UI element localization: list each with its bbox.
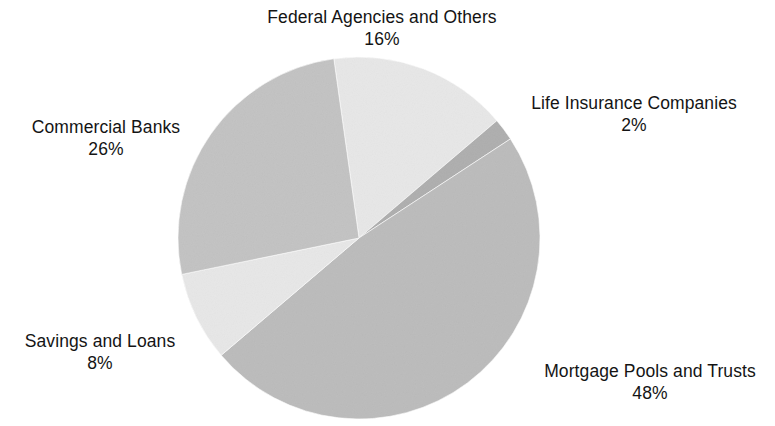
slice-label-savings-and-loans: Savings and Loans 8% [0, 330, 200, 375]
slice-label-value: 48% [528, 382, 772, 404]
slice-label-commercial-banks: Commercial Banks 26% [2, 116, 210, 161]
slice-label-name: Mortgage Pools and Trusts [528, 360, 772, 382]
slice-label-value: 16% [232, 28, 532, 50]
slice-label-life-insurance-companies: Life Insurance Companies 2% [498, 92, 770, 137]
slice-label-name: Life Insurance Companies [498, 92, 770, 114]
slice-label-value: 8% [0, 352, 200, 374]
slice-label-name: Commercial Banks [2, 116, 210, 138]
pie-chart-page: Federal Agencies and Others 16% Life Ins… [0, 0, 775, 426]
slice-label-federal-agencies-and-others: Federal Agencies and Others 16% [232, 6, 532, 51]
slice-label-mortgage-pools-and-trusts: Mortgage Pools and Trusts 48% [528, 360, 772, 405]
slice-label-name: Savings and Loans [0, 330, 200, 352]
pie-slice [178, 59, 359, 275]
slice-label-name: Federal Agencies and Others [232, 6, 532, 28]
pie-slice-group [178, 57, 540, 419]
slice-label-value: 2% [498, 114, 770, 136]
slice-label-value: 26% [2, 138, 210, 160]
